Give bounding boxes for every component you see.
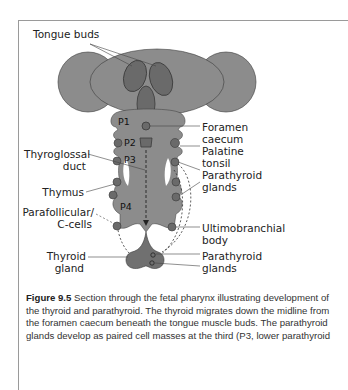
label-parathyroid-lower-1: Parathyroid xyxy=(202,250,262,262)
label-thymus: Thymus xyxy=(24,186,84,198)
pouch-label-p3: P3 xyxy=(124,154,136,165)
label-thyroid-gland-2: gland xyxy=(24,262,84,274)
thyroid-anlage xyxy=(140,138,152,147)
label-parafollicular-2: C-cells xyxy=(22,218,92,230)
label-parathyroid-upper-2: glands xyxy=(202,181,237,193)
left-p3-nodule xyxy=(113,157,121,165)
figure-number: Figure 9.5 xyxy=(26,292,71,303)
label-thyroid-gland-1: Thyroid xyxy=(24,250,86,262)
ultimobranchial-right xyxy=(168,223,176,231)
palatine-tonsil xyxy=(171,139,180,148)
pouch-label-p4: P4 xyxy=(120,201,132,212)
label-parathyroid-lower-2: glands xyxy=(202,262,237,274)
caption-text: Section through the fetal pharynx illust… xyxy=(26,292,330,341)
p4-left-nodule xyxy=(109,191,117,199)
label-thyroglossal-1: Thyroglossal xyxy=(24,148,86,160)
leader-parathyroid-upper-2 xyxy=(179,182,200,196)
leader-parathyroid-upper xyxy=(178,162,200,170)
leader-thymus xyxy=(86,184,115,192)
foramen-caecum xyxy=(142,122,150,130)
label-tongue-buds: Tongue buds xyxy=(33,28,99,40)
label-ultimobranchial-1: Ultimobranchial xyxy=(202,222,285,234)
thymus-right xyxy=(172,178,180,186)
p4-right-nodule xyxy=(172,193,180,201)
pharynx-diagram xyxy=(0,0,333,290)
ultimobranchial-left xyxy=(113,222,121,230)
leader-parafollicular xyxy=(96,214,113,223)
label-thyroglossal-2: duct xyxy=(24,160,86,172)
pouch-label-p2: P2 xyxy=(124,137,136,148)
figure-caption: Figure 9.5 Section through the fetal pha… xyxy=(26,292,331,342)
left-p2-nodule xyxy=(114,139,122,147)
label-foramen-caecum-2: caecum xyxy=(202,133,243,145)
label-ultimobranchial-2: body xyxy=(202,234,228,246)
label-palatine-tonsil-1: Palatine xyxy=(202,145,244,157)
label-parathyroid-upper-1: Parathyroid xyxy=(202,169,262,181)
thymus-left xyxy=(113,178,121,186)
upper-parathyroid-right xyxy=(171,158,179,166)
ultimobranchial-migration-left xyxy=(118,230,130,254)
label-foramen-caecum-1: Foramen xyxy=(202,121,248,133)
label-palatine-tonsil-2: tonsil xyxy=(202,157,231,169)
pouch-label-p1: P1 xyxy=(118,116,130,127)
label-parafollicular-1: Parafollicular/ xyxy=(22,206,94,218)
